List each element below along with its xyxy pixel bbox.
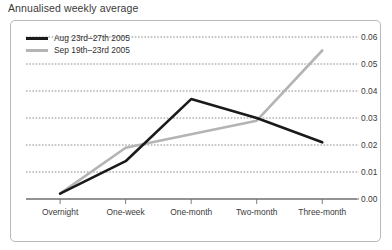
legend-entry-1: Sep 19th–23rd 2005 (26, 45, 130, 55)
y-tick-label-6: 0.06 (361, 32, 377, 42)
y-tick-label-0: 0.00 (361, 194, 377, 204)
y-tick-label-1: 0.01 (361, 167, 377, 177)
x-tick-label-one-month: One-month (170, 207, 212, 217)
y-tick-label-2: 0.02 (361, 140, 377, 150)
chart-figure: Annualised weekly average Aug 23rd–27th … (0, 0, 392, 250)
x-tick-label-overnight: Overnight (42, 207, 78, 217)
x-tick-label-one-week: One-week (107, 207, 145, 217)
y-tick-label-5: 0.05 (361, 59, 377, 69)
legend-swatch-icon-0 (26, 37, 48, 40)
chart-title: Annualised weekly average (8, 2, 138, 14)
legend-label-0: Aug 23rd–27th 2005 (54, 33, 130, 43)
y-tick-label-3: 0.03 (361, 113, 377, 123)
y-tick-label-4: 0.04 (361, 86, 377, 96)
legend-entry-0: Aug 23rd–27th 2005 (26, 33, 130, 43)
legend-swatch-icon-1 (26, 49, 48, 52)
x-tick-label-two-month: Two-month (236, 207, 277, 217)
legend-label-1: Sep 19th–23rd 2005 (54, 45, 130, 55)
x-tick-label-three-month: Three-month (298, 207, 346, 217)
